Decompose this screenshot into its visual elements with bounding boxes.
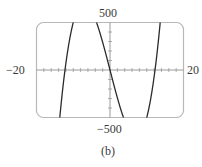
x-max-label: 20 [187, 64, 199, 76]
y-max-label: 500 [99, 7, 117, 19]
figure-caption: (b) [101, 145, 115, 157]
graph-plot [0, 0, 202, 167]
y-min-label: −500 [97, 123, 122, 135]
x-min-label: −20 [6, 64, 25, 76]
